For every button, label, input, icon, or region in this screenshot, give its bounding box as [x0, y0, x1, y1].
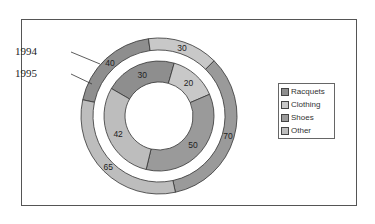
- value-label: 30: [138, 70, 148, 80]
- series-label-1995: 1995: [15, 67, 37, 79]
- value-label: 65: [103, 162, 113, 172]
- legend-swatch: [281, 88, 289, 96]
- segment-1995-shoes: [146, 94, 214, 171]
- series-label-1994: 1994: [15, 45, 37, 57]
- legend-label: Other: [291, 126, 311, 135]
- legend: Racquets Clothing Shoes Other: [278, 83, 335, 139]
- value-label: 70: [223, 131, 233, 141]
- value-label: 30: [177, 43, 187, 53]
- value-label: 20: [184, 78, 194, 88]
- legend-label: Clothing: [291, 100, 320, 109]
- legend-item-other: Other: [281, 124, 332, 137]
- leader-line-1994: [71, 52, 100, 64]
- value-label: 50: [188, 140, 198, 150]
- legend-swatch: [281, 127, 289, 135]
- value-label: 40: [105, 58, 115, 68]
- leader-line-1995: [71, 74, 92, 84]
- legend-swatch: [281, 101, 289, 109]
- legend-label: Racquets: [291, 87, 325, 96]
- value-label: 42: [113, 129, 123, 139]
- legend-item-racquets: Racquets: [281, 85, 332, 98]
- segment-1995-racquets: [111, 61, 174, 99]
- segment-1995-other: [104, 89, 151, 170]
- legend-label: Shoes: [291, 113, 314, 122]
- legend-swatch: [281, 114, 289, 122]
- legend-item-shoes: Shoes: [281, 111, 332, 124]
- legend-item-clothing: Clothing: [281, 98, 332, 111]
